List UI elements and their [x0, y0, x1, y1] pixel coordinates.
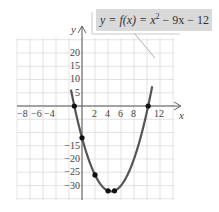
parabola-chart: x y −8 −6 −4 2 4 6 8 12 20 15 10 5 −15 −… — [0, 0, 219, 212]
equation-rhs: − 9x − 12 — [160, 13, 210, 27]
equation-lhs: y = f(x) = x — [100, 13, 156, 27]
y-tick-label: 15 — [70, 60, 80, 71]
y-tick-label: −20 — [64, 153, 80, 164]
data-point — [112, 188, 117, 193]
data-point — [105, 188, 110, 193]
data-point — [92, 172, 97, 177]
y-tick-label: 20 — [70, 47, 80, 58]
y-tick-label: 10 — [70, 73, 80, 84]
x-tick-labels: −8 −6 −4 2 4 6 8 12 — [17, 108, 164, 119]
x-axis-label: x — [178, 109, 184, 121]
x-tick-label: 6 — [118, 108, 123, 119]
y-tick-label: −15 — [64, 140, 80, 151]
y-tick-label: 5 — [75, 87, 80, 98]
x-tick-label: −4 — [44, 108, 55, 119]
y-tick-label: −30 — [64, 180, 80, 191]
data-point — [72, 103, 77, 108]
x-tick-label: −8 — [17, 108, 28, 119]
equation-label: y = f(x) = x2 − 9x − 12 — [100, 12, 209, 28]
data-point — [146, 103, 151, 108]
data-point — [79, 135, 84, 140]
y-axis-label: y — [70, 23, 76, 35]
x-tick-label: 2 — [92, 108, 97, 119]
y-tick-label: −25 — [64, 166, 80, 177]
x-tick-label: −6 — [31, 108, 42, 119]
x-tick-label: 12 — [154, 108, 164, 119]
x-tick-label: 4 — [105, 108, 110, 119]
x-tick-label: 8 — [131, 108, 136, 119]
label-leader-line — [134, 33, 155, 58]
marked-points — [72, 103, 151, 193]
